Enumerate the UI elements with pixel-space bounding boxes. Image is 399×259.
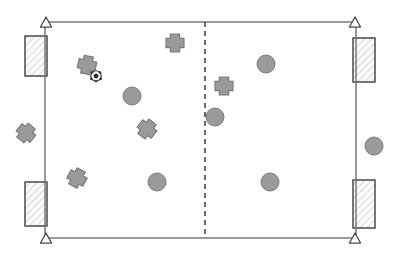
cross-player-4 [134, 116, 159, 141]
cross-player-5 [65, 166, 89, 190]
soccer-ball-patch-3 [100, 78, 102, 80]
corner-flags [41, 17, 361, 243]
circle-player-3 [206, 108, 224, 126]
soccer-field-svg [0, 0, 399, 259]
field-boundary [45, 22, 356, 238]
circle-player-4 [148, 173, 166, 191]
field-diagram-canvas [0, 0, 399, 259]
soccer-ball-patch-4 [90, 78, 92, 80]
circle-player-6 [365, 137, 383, 155]
goal-left-bottom [25, 182, 47, 226]
cross-player-1 [166, 34, 184, 52]
soccer-ball-patch-1 [91, 71, 93, 73]
cross-player-6 [13, 120, 38, 145]
soccer-ball-patch-5 [95, 80, 97, 82]
soccer-ball-marker [90, 71, 102, 82]
circle-player-5 [261, 173, 279, 191]
goal-left-top [25, 36, 47, 76]
soccer-ball-patch-2 [99, 71, 101, 73]
playing-field [45, 22, 356, 238]
circle-player-markers [123, 55, 383, 191]
circle-player-1 [123, 87, 141, 105]
circle-player-2 [257, 55, 275, 73]
cross-player-3 [215, 77, 233, 95]
